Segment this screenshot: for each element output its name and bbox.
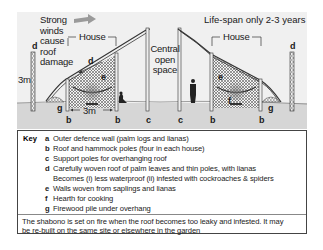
central-line: Central: [147, 44, 183, 55]
house-label-left: House: [79, 32, 105, 42]
label-d-left-wall: d: [32, 42, 38, 51]
label-e-right: e: [218, 73, 223, 82]
label-g-left: g: [57, 104, 63, 113]
label-d-roof: d: [88, 57, 94, 66]
key-text: Walls woven from saplings and lianas: [53, 184, 176, 193]
key-letter: b: [45, 144, 53, 153]
key-letter: e: [45, 184, 53, 193]
key-text: Roof and hammock poles (four in each hou…: [53, 144, 204, 153]
wind-line: Strong: [40, 15, 73, 26]
height-label: 3m: [18, 75, 31, 85]
right-pole-b1: [210, 53, 213, 111]
key-item: bRoof and hammock poles (four in each ho…: [45, 144, 204, 153]
label-b-3: b: [210, 116, 216, 125]
wind-line: cause: [40, 36, 73, 47]
key-letter: c: [45, 154, 53, 163]
key-text: Support poles for overhanging roof: [53, 154, 167, 163]
central-line: space: [147, 65, 183, 76]
house-label-right: House: [223, 32, 249, 42]
label-b-1: b: [66, 116, 72, 125]
key-item: fHearth for cooking: [45, 194, 113, 203]
label-d-right-wall: d: [290, 42, 296, 51]
key-item: cSupport poles for overhanging roof: [45, 154, 167, 163]
wind-caption: Strong winds cause roof damage: [40, 15, 73, 68]
label-f: f: [228, 97, 231, 106]
key-item: aOuter defence wall (palm logs and liana…: [45, 134, 189, 143]
right-pole-b2: [259, 79, 262, 111]
right-hearth: [230, 103, 242, 105]
key-item: gFirewood pile under overhang: [45, 204, 151, 213]
key-item-continuation: Becomes (i) less waterproof (ii) infeste…: [45, 174, 274, 183]
label-b-4: b: [259, 116, 265, 125]
key-text: Firewood pile under overhang: [53, 204, 151, 213]
note-line: The shabono is set on fire when the roof…: [22, 217, 283, 226]
key-text: Carefully woven roof of palm leaves and …: [53, 164, 256, 173]
right-outer-wall: [290, 52, 294, 111]
label-g-right: g: [268, 104, 274, 113]
key-letter: f: [45, 194, 53, 203]
key-text: Becomes (i) less waterproof (ii) infeste…: [53, 174, 274, 183]
wind-line: damage: [40, 57, 73, 68]
standing-person: [191, 79, 195, 83]
central-space-caption: Central open space: [147, 44, 183, 76]
label-c-2: c: [178, 116, 183, 125]
left-pole-b1: [66, 79, 69, 111]
width-label: 3m: [83, 106, 96, 116]
key-letter: d: [45, 164, 53, 173]
label-c-1: c: [146, 116, 151, 125]
key-text: Outer defence wall (palm logs and lianas…: [53, 134, 189, 143]
key-heading: Key: [23, 134, 37, 143]
left-pole-b2: [115, 53, 118, 111]
label-e-left: e: [101, 73, 106, 82]
key-item: dCarefully woven roof of palm leaves and…: [45, 164, 256, 173]
key-letter: g: [45, 204, 53, 213]
key-item: eWalls woven from saplings and lianas: [45, 184, 176, 193]
key-divider: [18, 214, 306, 215]
label-b-2: b: [115, 116, 121, 125]
key-letter: a: [45, 134, 53, 143]
key-text: Hearth for cooking: [53, 194, 113, 203]
lifespan-caption: Life-span only 2-3 years: [204, 15, 305, 25]
left-outer-wall: [31, 52, 35, 111]
key-panel: Key aOuter defence wall (palm logs and l…: [17, 130, 307, 234]
note-line: be re-built on the same site or elsewher…: [22, 226, 200, 235]
